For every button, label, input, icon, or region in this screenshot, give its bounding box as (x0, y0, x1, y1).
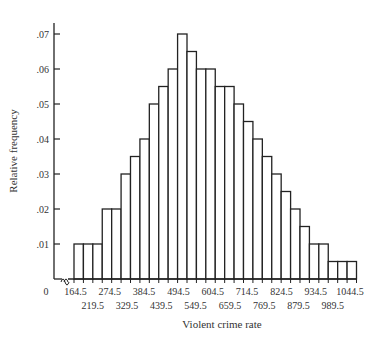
histogram-bar (272, 174, 281, 279)
histogram-bar (300, 227, 309, 280)
histogram-bar (178, 34, 187, 279)
histogram-bar (328, 262, 337, 280)
x-tick-label: 989.5 (322, 300, 345, 311)
histogram-bar (319, 244, 328, 279)
y-tick-label: .04 (37, 134, 50, 145)
x-tick-label: 824.5 (270, 286, 293, 297)
histogram-bar (159, 87, 168, 280)
histogram-bar (149, 104, 158, 279)
histogram-bar (225, 87, 234, 280)
histogram-bar (93, 244, 102, 279)
histogram-bar (196, 69, 205, 279)
histogram-bar (140, 139, 149, 279)
x-tick-label: 219.5 (81, 300, 104, 311)
y-axis-ticks: .01.02.03.04.05.06.07 (37, 29, 61, 250)
x-tick-label: 879.5 (287, 300, 310, 311)
x-tick-label: 1044.5 (336, 286, 364, 297)
axis-break-icon (61, 279, 69, 285)
histogram-bar (102, 209, 111, 279)
y-tick-label: .06 (37, 64, 50, 75)
x-tick-label: 439.5 (150, 300, 173, 311)
y-axis-title: Relative frequency (7, 109, 19, 193)
histogram-bar (112, 209, 121, 279)
x-tick-label: 659.5 (219, 300, 242, 311)
y-tick-label: .05 (37, 99, 50, 110)
histogram-bar (187, 52, 196, 280)
histogram-bar (338, 262, 347, 280)
x-tick-label: 494.5 (167, 286, 190, 297)
histogram-bar (291, 209, 300, 279)
x-tick-label: 549.5 (184, 300, 207, 311)
histogram-bar (347, 262, 356, 280)
x-axis-title: Violent crime rate (182, 318, 261, 330)
histogram-bar (168, 69, 177, 279)
histogram-bar (215, 87, 224, 280)
x-tick-label: 714.5 (236, 286, 259, 297)
histogram-chart: .01.02.03.04.05.06.07 0164.5274.5384.549… (0, 0, 383, 339)
x-tick-label: 934.5 (304, 286, 327, 297)
histogram-bar (244, 122, 253, 280)
y-tick-label: .01 (37, 239, 50, 250)
histogram-bar (262, 157, 271, 280)
x-tick-label: 329.5 (116, 300, 139, 311)
histogram-bar (121, 174, 130, 279)
histogram-bar (234, 104, 243, 279)
histogram-bar (309, 244, 318, 279)
y-tick-label: .03 (37, 169, 50, 180)
histogram-bar (131, 157, 140, 280)
x-tick-label: 384.5 (133, 286, 156, 297)
x-tick-label: 274.5 (99, 286, 122, 297)
x-tick-label: 769.5 (253, 300, 276, 311)
histogram-bar (83, 244, 92, 279)
x-tick-label: 164.5 (64, 286, 87, 297)
histogram-bar (253, 139, 262, 279)
histogram-bar (74, 244, 83, 279)
x-tick-label: 604.5 (202, 286, 225, 297)
histogram-bar (281, 192, 290, 280)
y-tick-label: .02 (37, 204, 50, 215)
y-tick-label: .07 (37, 29, 50, 40)
x-tick-label-origin: 0 (44, 286, 49, 297)
histogram-bar (206, 69, 215, 279)
x-axis-tick-labels: 0164.5274.5384.5494.5604.5714.5824.5934.… (44, 286, 364, 311)
histogram-bars (74, 34, 357, 279)
